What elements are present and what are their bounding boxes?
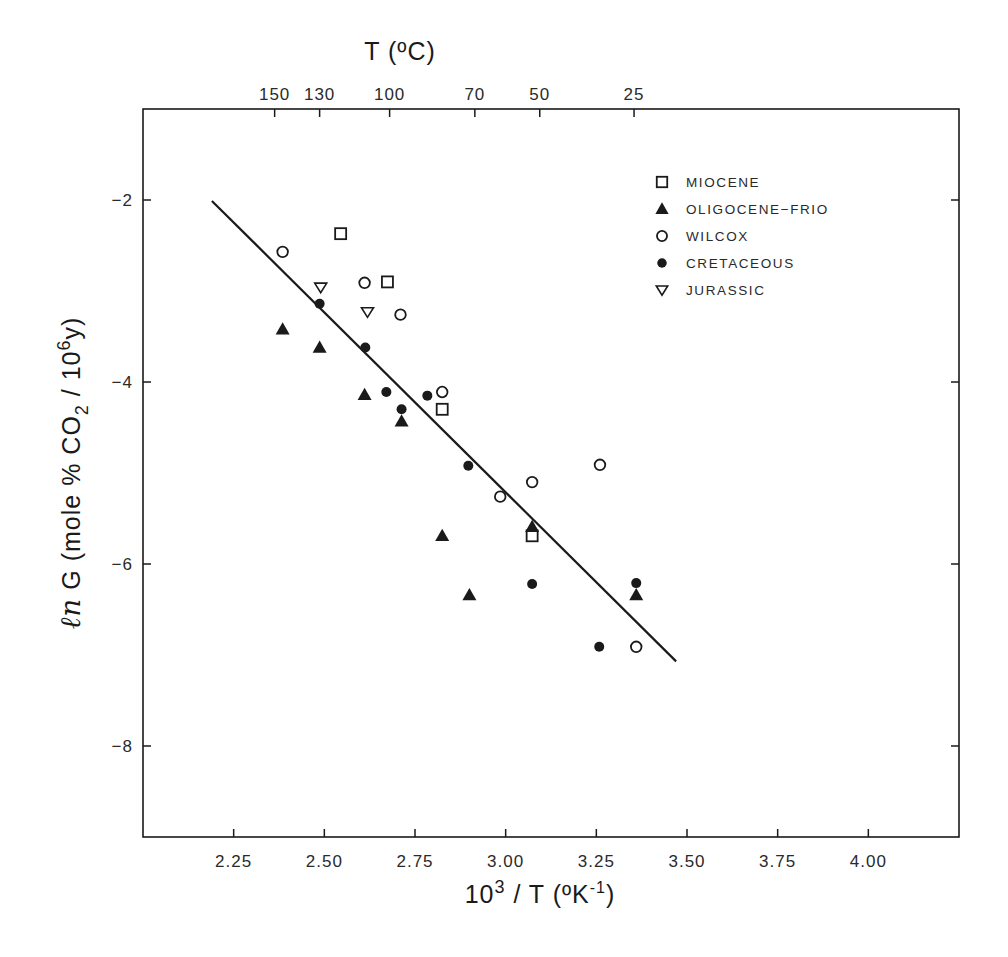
- x-tick-label: 2.50: [306, 852, 343, 871]
- top-tick-label: 130: [304, 85, 335, 104]
- legend-item: OLIGOCENE−FRIO: [655, 202, 828, 217]
- top-tick-label: 50: [529, 85, 550, 104]
- data-point-open-circle: [595, 460, 606, 471]
- data-point-filled-triangle: [525, 520, 539, 532]
- data-point-filled-triangle: [276, 322, 290, 334]
- data-point-filled-triangle: [313, 340, 327, 352]
- left-axis-title: ℓn G (mole % CO2 / 106y): [54, 317, 92, 630]
- regression-line: [212, 201, 676, 661]
- top-tick-label: 70: [464, 85, 485, 104]
- data-point-filled-triangle: [395, 414, 409, 426]
- legend-label: MIOCENE: [686, 175, 760, 190]
- top-axis-title: T (ºC): [364, 37, 436, 65]
- y-tick-label: −8: [112, 737, 133, 756]
- y-tick-label: −6: [112, 555, 133, 574]
- open-circle-legend-icon: [657, 231, 667, 241]
- legend-item: WILCOX: [657, 229, 749, 244]
- top-tick-label: 150: [259, 85, 290, 104]
- data-point-open-circle: [527, 477, 538, 488]
- legend: MIOCENEOLIGOCENE−FRIOWILCOXCRETACEOUSJUR…: [655, 175, 828, 298]
- top-tick-label: 100: [374, 85, 405, 104]
- x-tick-label: 2.75: [396, 852, 433, 871]
- data-point-filled-triangle: [358, 388, 372, 400]
- y-tick-label: −4: [112, 373, 133, 392]
- data-point-open-circle: [495, 491, 506, 502]
- legend-item: MIOCENE: [657, 175, 760, 190]
- data-point-filled-circle: [381, 387, 391, 397]
- open-square-legend-icon: [657, 177, 667, 187]
- data-point-open-circle: [631, 642, 642, 653]
- data-point-open-square: [382, 276, 393, 287]
- x-tick-label: 2.25: [215, 852, 252, 871]
- legend-item: JURASSIC: [656, 283, 765, 298]
- data-point-open-circle: [395, 309, 406, 320]
- y-tick-label: −2: [112, 191, 133, 210]
- data-point-filled-circle: [315, 299, 325, 309]
- x-tick-label: 3.75: [759, 852, 796, 871]
- legend-label: OLIGOCENE−FRIO: [686, 202, 829, 217]
- data-point-filled-circle: [463, 461, 473, 471]
- legend-item: CRETACEOUS: [657, 256, 795, 271]
- data-point-filled-triangle: [629, 588, 643, 600]
- data-point-filled-circle: [360, 342, 370, 352]
- x-tick-label: 3.25: [578, 852, 615, 871]
- data-point-filled-circle: [397, 404, 407, 414]
- x-tick-label: 3.50: [668, 852, 705, 871]
- data-point-open-circle: [277, 247, 288, 258]
- filled-triangle-legend-icon: [655, 202, 668, 214]
- bottom-axis-title: 103 / T (ºK-1): [465, 877, 616, 908]
- scatter-chart: T (ºC) 150130100705025 2.252.502.753.003…: [0, 0, 1008, 957]
- filled-circle-legend-icon: [657, 258, 667, 268]
- top-axis-ticks: 150130100705025: [259, 85, 645, 117]
- data-point-open-down-triangle: [361, 308, 373, 318]
- bottom-axis-ticks: 2.252.502.753.003.253.503.754.00: [215, 829, 887, 871]
- data-points: [276, 228, 644, 652]
- data-point-open-circle: [359, 278, 370, 289]
- data-point-filled-triangle: [462, 588, 476, 600]
- data-point-filled-triangle: [435, 529, 449, 541]
- legend-label: CRETACEOUS: [686, 256, 795, 271]
- data-point-open-square: [335, 228, 346, 239]
- left-axis-ticks: −2−4−6−8: [112, 191, 959, 756]
- x-tick-label: 4.00: [850, 852, 887, 871]
- data-point-open-down-triangle: [315, 283, 327, 293]
- open-down-triangle-legend-icon: [656, 286, 667, 295]
- data-point-filled-circle: [631, 578, 641, 588]
- plot-frame: [143, 109, 959, 837]
- x-tick-label: 3.00: [487, 852, 524, 871]
- data-point-filled-circle: [594, 642, 604, 652]
- legend-label: JURASSIC: [686, 283, 766, 298]
- data-point-open-square: [437, 404, 448, 415]
- data-point-filled-circle: [527, 579, 537, 589]
- data-point-filled-circle: [422, 391, 432, 401]
- data-point-open-circle: [437, 387, 448, 398]
- legend-label: WILCOX: [686, 229, 749, 244]
- top-tick-label: 25: [624, 85, 645, 104]
